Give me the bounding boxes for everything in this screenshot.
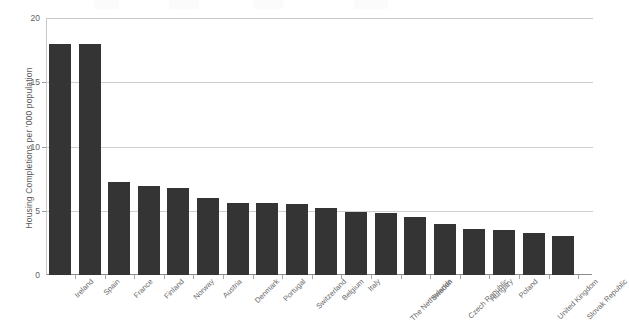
bar (404, 217, 426, 275)
bar (227, 203, 249, 275)
x-tick-label: Poland (517, 277, 540, 300)
bar (493, 230, 515, 275)
x-tick-label: Denmark (253, 277, 281, 305)
y-tick-label: 15 (26, 77, 40, 87)
bar (286, 204, 308, 275)
bar (434, 224, 456, 275)
cropped-title-artifact (60, 0, 480, 9)
x-tick-label: Spain (101, 277, 121, 297)
plot-area (46, 18, 592, 275)
bar (108, 182, 130, 275)
y-tick-label: 5 (26, 206, 40, 216)
x-axis-tick-labels: IrelandSpainFranceFinlandNorwayAustriaDe… (46, 277, 592, 332)
y-tick-label: 20 (26, 13, 40, 23)
x-tick-label: Portugal (281, 277, 307, 303)
bar (256, 203, 278, 275)
y-tick-label: 10 (26, 142, 40, 152)
x-tick-label: Austria (221, 277, 244, 300)
bar (79, 44, 101, 275)
bar (315, 208, 337, 275)
x-tick-label: Ireland (73, 277, 96, 300)
x-tick-label: Italy (366, 277, 382, 293)
bar (375, 213, 397, 275)
bar (463, 229, 485, 275)
bar (167, 188, 189, 275)
x-tick-label: Finland (162, 277, 186, 301)
bar (49, 44, 71, 275)
y-tick-label: 0 (26, 270, 40, 280)
bar (345, 212, 367, 275)
bar (552, 236, 574, 275)
x-tick-label: Norway (192, 277, 216, 301)
bar (138, 186, 160, 275)
bar (523, 233, 545, 275)
x-tick-label: France (132, 277, 155, 300)
bars-layer (47, 18, 593, 275)
bar (197, 198, 219, 275)
